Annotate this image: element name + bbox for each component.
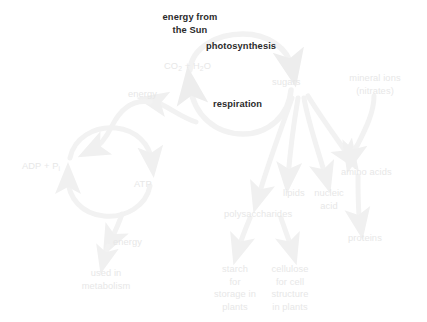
node-lipids: lipids: [283, 187, 305, 200]
node-co2-h2o: CO2 + H2O: [164, 60, 211, 74]
node-mineral-ions: mineral ions(nitrates): [344, 72, 406, 97]
node-cellulose: cellulosefor cellstructurein plants: [266, 263, 314, 313]
diagram-canvas: energy fromthe Sun photosynthesis CO2 + …: [0, 0, 427, 322]
edge-energy-to-metabolism: [104, 246, 108, 260]
node-nucleic-acid: nucleicacid: [310, 187, 348, 212]
node-used-in-metabolism: used inmetabolism: [74, 267, 138, 292]
node-amino-acids: amino acids: [341, 166, 392, 179]
edge-amino-acids-to-proteins: [358, 176, 360, 224]
node-photosynthesis: photosynthesis: [206, 40, 276, 53]
node-proteins: proteins: [348, 232, 382, 245]
edge-sugars-to-polysaccharides: [258, 98, 292, 198]
node-energy-left: energy: [128, 88, 157, 101]
edge-minerals-to-amino-acids: [351, 96, 374, 158]
node-energy-bottom: energy: [113, 236, 142, 249]
edge-sugars-to-amino-acids: [308, 96, 350, 158]
node-atp: ATP: [134, 178, 152, 191]
edge-poly-to-cellulose: [281, 218, 292, 250]
edge-respiration-to-energy: [152, 101, 196, 122]
node-adp-pi: ADP + Pi: [22, 160, 60, 174]
edge-poly-to-starch: [238, 218, 250, 250]
node-polysaccharides: polysaccharides: [224, 208, 292, 221]
node-respiration: respiration: [213, 98, 262, 111]
node-starch: starchforstorage inplants: [210, 263, 260, 313]
node-sugars: sugars: [272, 76, 301, 89]
node-energy-from-sun: energy fromthe Sun: [154, 11, 226, 36]
